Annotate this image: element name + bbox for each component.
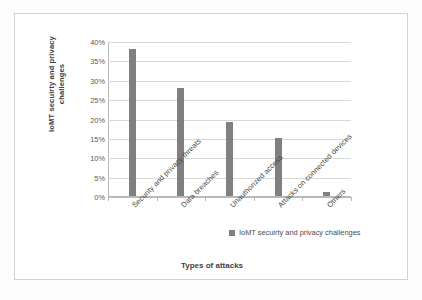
y-axis-title: IoMT secuirty and privacy challenges <box>47 24 67 144</box>
chart-frame: IoMT secuirty and privacy challenges 40%… <box>14 13 408 280</box>
y-axis-tick-label: 25% <box>71 96 105 105</box>
y-axis-tick-label: 30% <box>71 76 105 85</box>
bar-chart-figure: IoMT secuirty and privacy challenges 40%… <box>0 0 422 300</box>
y-axis-tick-labels: 40%35%30%25%20%15%10%5%0% <box>69 42 105 197</box>
y-axis-tick-label: 35% <box>71 57 105 66</box>
y-axis-tick-label: 0% <box>71 193 105 202</box>
bar <box>177 88 184 197</box>
x-axis-tick <box>302 197 303 201</box>
y-axis-tick-label: 15% <box>71 134 105 143</box>
y-axis-tick-label: 5% <box>71 173 105 182</box>
gridline <box>108 81 351 82</box>
x-axis-tick <box>108 197 109 201</box>
x-axis-tick <box>157 197 158 201</box>
legend-entry-label: IoMT secuirty and privacy challenges <box>239 228 360 237</box>
x-axis-tick <box>351 197 352 201</box>
x-axis-tick <box>254 197 255 201</box>
bar <box>323 192 330 196</box>
gridline <box>108 42 351 43</box>
bar <box>129 49 136 196</box>
x-axis-tick <box>205 197 206 201</box>
legend-color-swatch <box>229 230 235 236</box>
gridline <box>108 100 351 101</box>
y-axis-tick-label: 20% <box>71 115 105 124</box>
y-axis-tick-label: 10% <box>71 154 105 163</box>
chart-legend: IoMT secuirty and privacy challenges <box>229 228 360 237</box>
gridline <box>108 120 351 121</box>
bar <box>226 122 233 196</box>
gridline <box>108 61 351 62</box>
y-axis-tick-label: 40% <box>71 38 105 47</box>
x-axis-title: Types of attacks <box>15 261 409 270</box>
